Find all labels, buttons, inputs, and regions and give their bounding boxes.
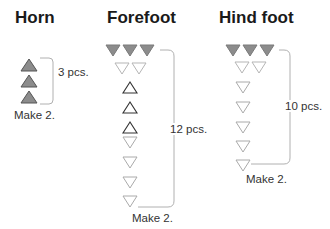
horn-bracket <box>40 58 53 104</box>
horn-triangles <box>21 59 37 103</box>
hind-light-down <box>236 82 250 171</box>
hind-filled-row <box>226 45 274 56</box>
forefoot-light-down <box>123 137 137 207</box>
horn-make-label: Make 2. <box>14 109 55 121</box>
hind-count-label: 10 pcs. <box>283 100 324 112</box>
forefoot-dark-up <box>123 82 137 133</box>
forefoot-filled-row <box>106 45 154 56</box>
forefoot-make-label: Make 2. <box>132 212 173 224</box>
hind-light-row <box>235 62 266 73</box>
hind-make-label: Make 2. <box>246 173 287 185</box>
forefoot-light-row <box>115 63 146 74</box>
forefoot-count-label: 12 pcs. <box>168 123 209 135</box>
horn-count-label: 3 pcs. <box>58 66 89 78</box>
